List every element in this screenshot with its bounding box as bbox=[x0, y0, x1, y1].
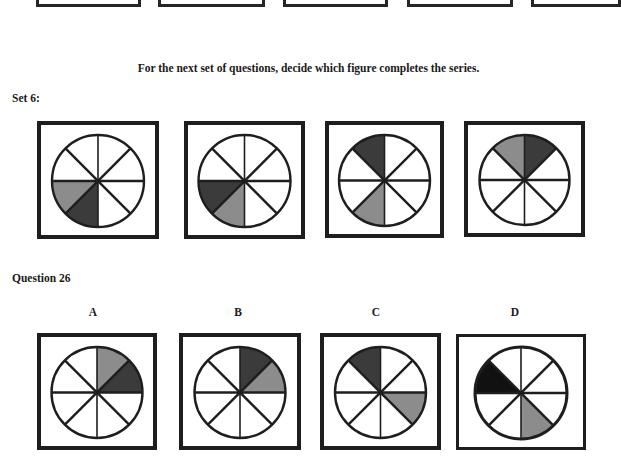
dark-wedge bbox=[348, 347, 380, 393]
segmented-circle-icon bbox=[183, 337, 297, 446]
gray-wedge bbox=[521, 393, 554, 439]
option-label-d: D bbox=[505, 306, 525, 318]
previous-figure-box bbox=[158, 0, 265, 7]
instructions-heading: For the next set of questions, decide wh… bbox=[0, 62, 617, 74]
segmented-circle-icon bbox=[459, 337, 583, 447]
series-figure-2 bbox=[184, 121, 305, 239]
gray-wedge bbox=[493, 135, 525, 180]
option-figure-a[interactable] bbox=[37, 333, 157, 450]
option-label-a: A bbox=[83, 306, 103, 318]
series-figure-1 bbox=[37, 121, 159, 239]
series-figure-4 bbox=[464, 121, 585, 237]
option-label-c: C bbox=[366, 306, 386, 318]
dark-wedge bbox=[525, 135, 557, 180]
gray-wedge bbox=[381, 393, 427, 425]
previous-figure-box bbox=[283, 0, 388, 7]
gray-wedge bbox=[352, 181, 384, 227]
segmented-circle-icon bbox=[468, 125, 581, 233]
dark-wedge bbox=[352, 135, 384, 181]
previous-figure-box bbox=[531, 0, 621, 7]
segmented-circle-icon bbox=[41, 125, 155, 235]
segmented-circle-icon bbox=[188, 125, 301, 235]
segmented-circle-icon bbox=[329, 125, 440, 234]
option-figure-d[interactable] bbox=[456, 334, 586, 450]
segmented-circle-icon bbox=[41, 337, 153, 446]
black-wedge bbox=[475, 360, 521, 393]
option-figure-c[interactable] bbox=[320, 333, 441, 450]
previous-figure-box bbox=[36, 0, 141, 7]
previous-figure-box bbox=[407, 0, 513, 7]
option-label-b: B bbox=[228, 306, 248, 318]
series-figure-3 bbox=[325, 121, 444, 238]
option-figure-b[interactable] bbox=[179, 333, 301, 450]
question-label: Question 26 bbox=[12, 272, 70, 284]
segmented-circle-icon bbox=[324, 337, 437, 446]
set-label: Set 6: bbox=[12, 92, 40, 104]
